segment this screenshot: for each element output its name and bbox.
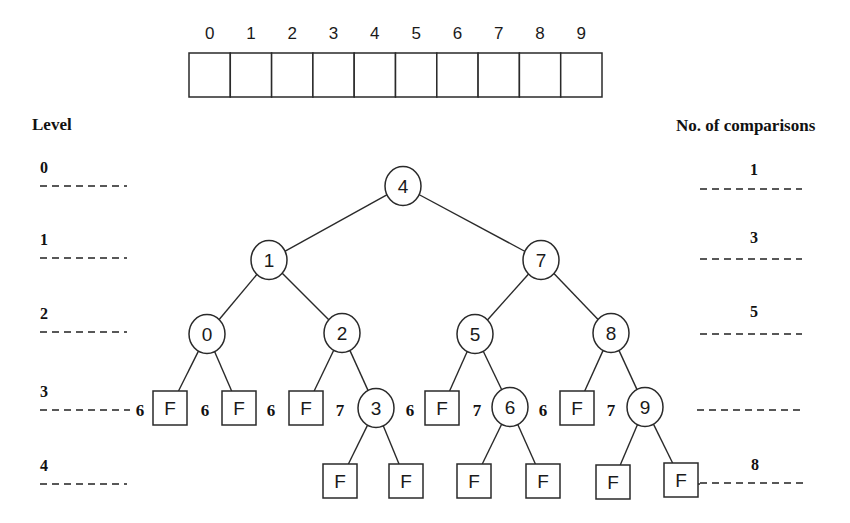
failure-cost-label: 6: [136, 401, 145, 420]
tree-node-label: 6: [505, 397, 516, 418]
tree-edge: [619, 349, 638, 390]
array-index-label: 4: [370, 24, 379, 43]
array: 0123456789: [189, 24, 602, 97]
failure-node: F: [323, 464, 357, 498]
tree-edge: [214, 351, 232, 391]
failure-node-label: F: [334, 471, 346, 492]
comparison-count-label: 5: [750, 303, 758, 320]
tree-edge: [585, 349, 604, 391]
failure-node: F: [457, 464, 491, 498]
tree-edge: [483, 350, 502, 391]
failure-node-label: F: [436, 398, 448, 419]
failure-node: F: [664, 463, 698, 497]
tree-node: 6: [492, 388, 528, 427]
tree-edge: [383, 425, 399, 464]
array-index-label: 3: [329, 24, 338, 43]
comparison-markers: 1358: [697, 161, 804, 484]
failure-node-label: F: [233, 398, 245, 419]
tree-edge: [314, 349, 334, 391]
array-cell: [354, 53, 395, 97]
tree-edge: [450, 350, 468, 391]
tree-node: 1: [251, 241, 287, 280]
tree-node: 5: [457, 315, 493, 354]
binary-search-decision-tree-diagram: 0123456789 Level No. of comparisons 0123…: [0, 0, 850, 523]
array-cell: [189, 53, 230, 97]
failure-node: F: [153, 391, 187, 425]
tree-edge: [487, 273, 529, 320]
array-index-label: 8: [535, 24, 544, 43]
comparisons-header: No. of comparisons: [676, 116, 816, 135]
array-cell: [230, 53, 271, 97]
tree-node: 4: [385, 167, 421, 206]
internal-nodes: 4170258369: [189, 167, 663, 428]
level-label: 4: [40, 457, 48, 474]
array-cell: [396, 53, 437, 97]
tree-edge: [553, 273, 598, 320]
tree-edge: [285, 195, 387, 252]
tree-edge: [349, 349, 368, 391]
tree-edge: [419, 195, 525, 252]
tree-edge: [653, 423, 673, 463]
tree-node: 8: [593, 314, 629, 353]
array-cell: [313, 53, 354, 97]
tree-node-label: 4: [398, 176, 409, 197]
failure-node: F: [389, 464, 423, 498]
tree-node-label: 3: [371, 398, 382, 419]
failure-node: F: [560, 391, 594, 425]
tree-node: 9: [627, 388, 663, 427]
failure-node: F: [222, 391, 256, 425]
comparison-count-label: 8: [751, 456, 759, 473]
tree-node-label: 8: [606, 323, 617, 344]
tree-node: 3: [358, 389, 394, 428]
level-label: 2: [40, 305, 48, 322]
level-label: 1: [40, 231, 48, 248]
failure-node: F: [425, 391, 459, 425]
array-index-label: 9: [577, 24, 586, 43]
array-cell: [437, 53, 478, 97]
tree-node-label: 7: [536, 250, 547, 271]
failure-cost-label: 7: [336, 401, 345, 420]
failure-node-label: F: [607, 472, 619, 493]
array-cell: [272, 53, 313, 97]
array-index-label: 0: [205, 24, 214, 43]
tree-node-label: 1: [264, 250, 275, 271]
failure-cost-label: 6: [267, 401, 276, 420]
tree-node: 2: [324, 314, 360, 353]
failure-cost-label: 6: [201, 401, 210, 420]
failure-node: F: [596, 465, 630, 499]
tree-edge: [620, 424, 638, 465]
failure-node-label: F: [400, 471, 412, 492]
array-index-label: 5: [411, 24, 420, 43]
tree-edge: [348, 424, 368, 464]
failure-node-label: F: [571, 398, 583, 419]
tree-edge: [517, 423, 535, 464]
comparison-count-label: 1: [750, 161, 758, 178]
level-label: 3: [40, 383, 48, 400]
level-markers: 01234: [40, 159, 130, 484]
failure-cost-label: 6: [539, 401, 548, 420]
array-index-label: 2: [288, 24, 297, 43]
tree-edge: [219, 274, 258, 320]
failure-node-label: F: [164, 398, 176, 419]
level-header: Level: [32, 115, 72, 134]
array-cell: [478, 53, 519, 97]
array-index-label: 7: [494, 24, 503, 43]
tree-edge: [282, 273, 330, 321]
failure-node-label: F: [537, 471, 549, 492]
failure-cost-label: 6: [406, 401, 415, 420]
tree-node: 7: [523, 241, 559, 280]
failure-node-label: F: [468, 471, 480, 492]
failure-node-label: F: [675, 470, 687, 491]
failure-cost-label: 7: [607, 401, 616, 420]
failure-node: F: [289, 391, 323, 425]
tree-node-label: 2: [337, 323, 348, 344]
tree-node-label: 9: [640, 397, 651, 418]
failure-nodes: FFFFFFFFFFF: [153, 391, 698, 499]
array-index-label: 1: [246, 24, 255, 43]
tree-node-label: 0: [202, 324, 213, 345]
failure-cost-label: 7: [473, 401, 482, 420]
array-cell: [561, 53, 602, 97]
comparison-count-label: 3: [750, 229, 758, 246]
array-index-label: 6: [453, 24, 462, 43]
failure-node: F: [526, 464, 560, 498]
